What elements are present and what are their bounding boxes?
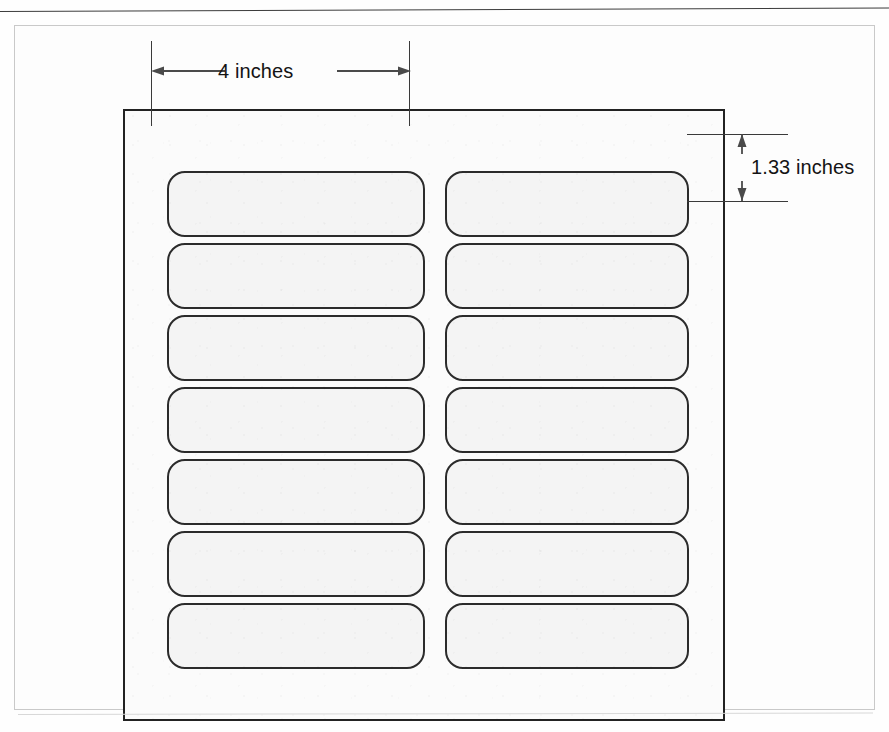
width-dimension-label: 4 inches	[218, 60, 293, 83]
label-cell-r4-c2	[445, 387, 689, 453]
label-cell-r6-c2	[445, 531, 689, 597]
label-cell-r5-c1	[167, 459, 425, 525]
label-cell-r7-c1	[167, 603, 425, 669]
width-extension-line-left	[151, 41, 152, 126]
label-cell-r7-c2	[445, 603, 689, 669]
header-horizontal-rule	[0, 8, 889, 12]
label-cell-r3-c2	[445, 315, 689, 381]
figure-frame: 4 inches 1.33 inches	[14, 25, 875, 710]
label-cell-r2-c1	[167, 243, 425, 309]
label-sheet-outline	[123, 109, 725, 721]
label-cell-r2-c2	[445, 243, 689, 309]
label-cell-r6-c1	[167, 531, 425, 597]
height-dimension-label: 1.33 inches	[751, 156, 854, 179]
cropped-header-text	[8, 0, 468, 7]
width-extension-line-right	[409, 41, 410, 126]
scanned-page-background: 4 inches 1.33 inches	[0, 0, 889, 732]
label-cell-r4-c1	[167, 387, 425, 453]
height-dimension-arrow	[735, 134, 749, 201]
height-extension-line-bottom	[687, 201, 788, 202]
label-cell-r1-c2	[445, 171, 689, 237]
label-cell-r5-c2	[445, 459, 689, 525]
label-cell-r3-c1	[167, 315, 425, 381]
label-cell-r1-c1	[167, 171, 425, 237]
